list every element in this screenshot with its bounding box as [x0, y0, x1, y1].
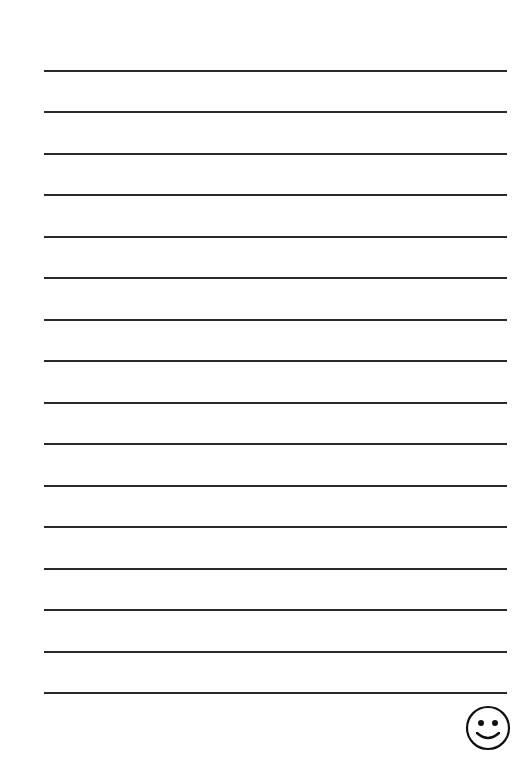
ruled-line: [44, 70, 507, 72]
ruled-line: [44, 402, 507, 404]
ruled-line: [44, 153, 507, 155]
ruled-line: [44, 319, 507, 321]
ruled-line: [44, 443, 507, 445]
ruled-line: [44, 526, 507, 528]
ruled-line: [44, 692, 507, 694]
ruled-line: [44, 609, 507, 611]
ruled-line: [44, 568, 507, 570]
ruled-line: [44, 651, 507, 653]
ruled-line: [44, 111, 507, 113]
ruled-line: [44, 485, 507, 487]
lined-paper: [0, 0, 519, 761]
ruled-line: [44, 236, 507, 238]
smiley-face-icon: [465, 705, 511, 751]
ruled-line: [44, 194, 507, 196]
ruled-line: [44, 277, 507, 279]
ruled-line: [44, 360, 507, 362]
